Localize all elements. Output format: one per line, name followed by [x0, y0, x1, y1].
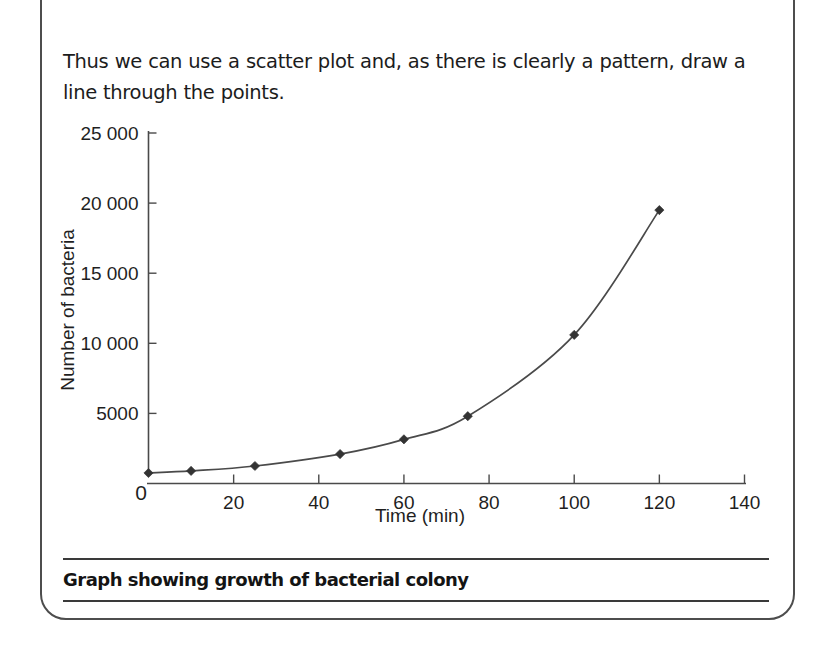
figure-caption: Graph showing growth of bacterial colony	[63, 566, 769, 594]
intro-paragraph: Thus we can use a scatter plot and, as t…	[63, 46, 763, 108]
caption-rule-bottom	[63, 600, 769, 602]
caption-rule-top	[63, 558, 769, 560]
